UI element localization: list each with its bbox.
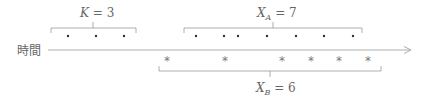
event-dot [67,35,69,37]
xb-label: XB = 6 [255,81,296,97]
event-dot [95,35,97,37]
event-dot [237,35,239,37]
event-dot [195,35,197,37]
bracket-k: K = 3 [51,6,136,37]
event-dot [352,35,354,37]
axis-label: 時間 [17,44,41,58]
event-star: * [336,54,342,68]
event-star: * [308,54,314,68]
k-label: K = 3 [79,6,114,20]
event-dot [223,35,225,37]
event-star: * [222,54,228,68]
event-dot [295,35,297,37]
time-axis: 時間 [17,44,411,58]
event-dot [266,35,268,37]
event-dot [323,35,325,37]
event-dot [123,35,125,37]
bracket-xa: XA = 7 [184,6,362,37]
event-star: * [164,54,170,68]
event-star: * [365,54,371,68]
event-star: * [279,54,285,68]
bracket-xb: * * * * * * XB = 6 [159,54,381,97]
xa-label: XA = 7 [256,6,297,22]
poisson-time-diagram: 時間 K = 3 XA = 7 * * * * [0,0,435,99]
